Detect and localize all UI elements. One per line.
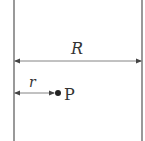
point-P-label: P (64, 85, 75, 104)
cylinder-diagram: R r P (0, 0, 145, 141)
radius-r-label: r (29, 74, 37, 90)
radius-R-label: R (70, 39, 83, 58)
point-P-dot (55, 90, 61, 96)
